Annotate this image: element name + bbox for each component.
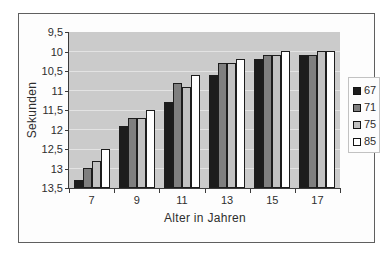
bar-series-71-age-17 [308, 55, 317, 188]
bar-series-67-age-15 [254, 59, 263, 188]
bar-series-85-age-13 [236, 59, 245, 188]
y-tick-mark [65, 149, 69, 150]
y-tick-mark [65, 71, 69, 72]
bar-series-85-age-9 [146, 110, 155, 188]
y-tick-mark [65, 91, 69, 92]
bar-series-67-age-17 [299, 55, 308, 188]
x-tick-mark [114, 189, 115, 193]
x-tick-mark [340, 189, 341, 193]
x-tick-mark [205, 189, 206, 193]
x-tick-label: 15 [252, 194, 292, 206]
y-tick-label: 10 [29, 46, 63, 58]
legend-label: 75 [364, 119, 376, 130]
x-tick-mark [295, 189, 296, 193]
x-tick-mark [159, 189, 160, 193]
y-tick-label: 10,5 [29, 65, 63, 77]
bar-series-85-age-15 [281, 51, 290, 188]
bar-series-85-age-17 [326, 51, 335, 188]
x-tick-label: 9 [117, 194, 157, 206]
x-tick-label: 11 [162, 194, 202, 206]
bar-series-85-age-11 [191, 75, 200, 188]
x-tick-label: 17 [297, 194, 337, 206]
bar-series-71-age-9 [128, 118, 137, 188]
y-tick-label: 13 [29, 163, 63, 175]
bar-series-75-age-11 [182, 87, 191, 188]
legend-entry-67: 67 [353, 82, 376, 99]
y-tick-mark [65, 169, 69, 170]
bar-series-67-age-9 [119, 126, 128, 188]
y-tick-mark [65, 130, 69, 131]
legend-entry-75: 75 [353, 116, 376, 133]
legend-swatch-icon [353, 87, 361, 95]
legend: 67717585 [348, 77, 380, 153]
bar-series-67-age-11 [164, 102, 173, 188]
y-axis-title: Sekunden [25, 82, 39, 138]
legend-label: 85 [364, 136, 376, 147]
bar-series-67-age-7 [74, 180, 83, 188]
bar-series-75-age-13 [227, 63, 236, 188]
bar-series-75-age-7 [92, 161, 101, 188]
x-tick-mark [250, 189, 251, 193]
bar-series-67-age-13 [209, 75, 218, 188]
bar-series-75-age-9 [137, 118, 146, 188]
legend-swatch-icon [353, 121, 361, 129]
legend-entry-71: 71 [353, 99, 376, 116]
x-tick-mark [69, 189, 70, 193]
y-tick-label: 13,5 [29, 182, 63, 194]
legend-swatch-icon [353, 104, 361, 112]
bar-series-75-age-17 [317, 51, 326, 188]
x-axis-title: Alter in Jahren [164, 211, 246, 225]
y-tick-label: 12,5 [29, 143, 63, 155]
scanned-chart-page: 9,51010,51111,51212,51313,5 7911131517 S… [0, 0, 392, 257]
gridline [69, 51, 340, 52]
x-tick-label: 13 [207, 194, 247, 206]
bar-series-85-age-7 [101, 149, 110, 188]
legend-label: 71 [364, 102, 376, 113]
chart-frame: 9,51010,51111,51212,51313,5 7911131517 S… [18, 13, 375, 243]
legend-swatch-icon [353, 138, 361, 146]
bar-series-71-age-15 [263, 55, 272, 188]
y-tick-mark [65, 110, 69, 111]
y-tick-label: 9,5 [29, 26, 63, 38]
bar-series-71-age-13 [218, 63, 227, 188]
legend-entry-85: 85 [353, 133, 376, 150]
plot-area [69, 32, 340, 188]
bar-series-71-age-11 [173, 83, 182, 188]
bar-series-71-age-7 [83, 168, 92, 188]
y-tick-mark [65, 32, 69, 33]
bar-series-75-age-15 [272, 55, 281, 188]
legend-label: 67 [364, 85, 376, 96]
x-tick-label: 7 [72, 194, 112, 206]
y-tick-mark [65, 52, 69, 53]
